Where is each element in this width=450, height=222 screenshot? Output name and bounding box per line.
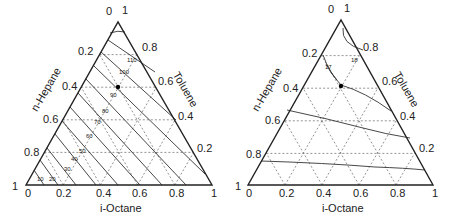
right-axis-tick: 1	[122, 5, 128, 16]
left-axis-tick: 1	[235, 181, 241, 192]
contour-label: 30	[64, 166, 71, 172]
right-axis-tick: 0.2	[419, 143, 434, 154]
left-axis-tick: 0.8	[246, 149, 261, 160]
right-axis-tick: 0.8	[363, 42, 378, 53]
contour-lines	[34, 31, 205, 185]
bottom-axis-tick: 0.8	[169, 188, 184, 199]
left-axis-tick: 0.2	[78, 46, 93, 57]
contour-label: 110	[127, 57, 137, 63]
contour-label: 90	[110, 92, 117, 98]
contour-label: 17	[325, 64, 332, 70]
ternary-diagram-right: 17 18 0 1 0.2 0.4 0.6 0.8 1 0.8 0.6 0.4 …	[225, 0, 450, 222]
bottom-axis-tick: 0.8	[390, 188, 405, 199]
left-axis-tick: 0.4	[62, 81, 77, 92]
contour-label: 100	[119, 69, 129, 75]
triangle-outline	[248, 20, 433, 185]
contour-label: 50	[79, 148, 86, 154]
right-axis-tick: 1	[344, 3, 350, 14]
left-axis-tick: 0.6	[265, 115, 280, 126]
left-axis-tick: 0.4	[283, 83, 298, 94]
ternary-diagram-left: 10 20 30 40 50 60 70 80 90 100 110 0 1 0…	[0, 0, 225, 222]
left-axis-tick: 0.6	[43, 114, 58, 125]
bottom-axis-tick: 0.6	[353, 188, 368, 199]
bottom-axis-tick: 0.4	[316, 188, 331, 199]
contour-label: 70	[94, 119, 101, 125]
bottom-axis-tick: 1	[211, 188, 217, 199]
bottom-axis-tick: 0.6	[132, 188, 147, 199]
triangle-outline	[26, 22, 212, 185]
contour-label: 20	[49, 176, 56, 182]
left-axis-tick: 0	[328, 4, 334, 15]
contour-label: 60	[86, 133, 93, 139]
bottom-axis-tick: 0	[25, 188, 31, 199]
contour-label: 40	[71, 156, 78, 162]
contour-label: 18	[351, 57, 358, 63]
right-axis-tick: 0.4	[178, 111, 193, 122]
bottom-axis-title: i-Octane	[100, 203, 142, 214]
contour-label: 80	[102, 108, 109, 114]
bottom-axis-tick: 0.4	[96, 188, 111, 199]
right-axis-tick: 0.6	[158, 76, 173, 87]
left-axis-tick: 0.8	[24, 147, 39, 158]
right-axis-tick: 0.8	[142, 42, 157, 53]
left-axis-tick: 1	[12, 181, 18, 192]
right-axis-tick: 0.2	[197, 143, 212, 154]
marked-point	[116, 85, 120, 89]
bottom-axis-tick: 0	[246, 188, 252, 199]
bottom-axis-tick: 0.2	[279, 188, 294, 199]
right-axis-tick: 0.4	[400, 111, 415, 122]
contour-label: 10	[37, 176, 44, 182]
bottom-axis-title: i-Octane	[322, 203, 364, 214]
left-axis-tick: 0	[106, 6, 112, 17]
bottom-axis-tick: 0.2	[56, 188, 71, 199]
left-axis-tick: 0.2	[302, 48, 317, 59]
marked-point	[339, 84, 343, 88]
bottom-axis-tick: 1	[432, 188, 438, 199]
